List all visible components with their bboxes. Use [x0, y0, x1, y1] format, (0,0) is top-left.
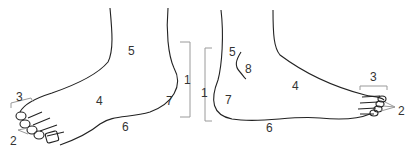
- label-heel-height: 1: [184, 74, 191, 86]
- left-foot-outline: [16, 8, 178, 145]
- label-heel: 7: [166, 95, 173, 107]
- label-toes: 3: [16, 91, 23, 103]
- label-toenails: 2: [10, 135, 17, 147]
- label-heel: 7: [225, 94, 232, 106]
- right-foot-outline: [214, 10, 386, 121]
- label-sole: 6: [122, 121, 129, 133]
- foot-diagram: [0, 0, 405, 147]
- label-heel-height: 1: [201, 87, 208, 99]
- label-sole: 6: [266, 122, 273, 134]
- label-instep: 4: [292, 80, 299, 92]
- label-ankle: 5: [229, 46, 236, 58]
- label-instep: 4: [96, 95, 103, 107]
- label-ankle: 5: [128, 45, 135, 57]
- left-foot-brackets: [11, 42, 190, 134]
- label-toenails: 2: [398, 105, 405, 117]
- label-toes: 3: [370, 71, 377, 83]
- label-ankle-bone: 8: [245, 63, 252, 75]
